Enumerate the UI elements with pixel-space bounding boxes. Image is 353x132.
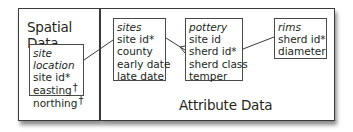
link-pottery-rims [243,37,274,49]
link-sites-pottery [166,38,185,50]
link-site-location-sites [84,40,113,60]
relationship-lines [0,0,353,132]
